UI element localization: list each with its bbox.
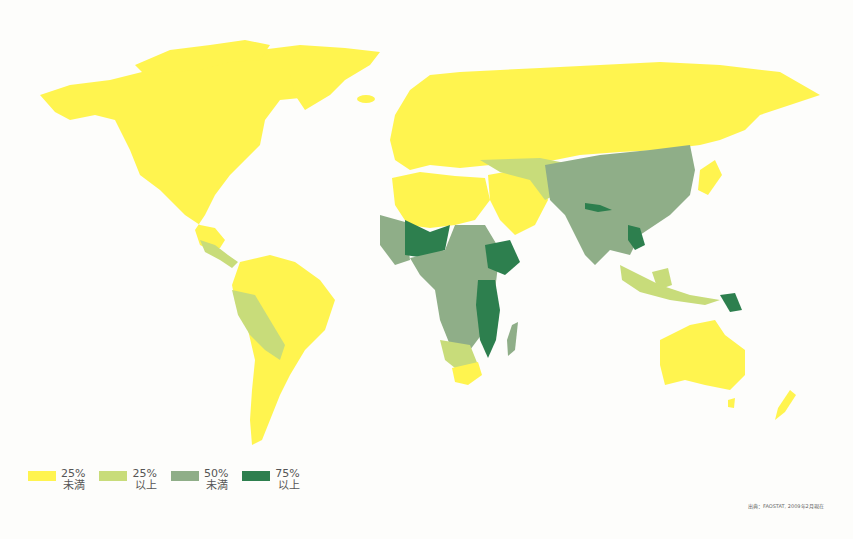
region-japan <box>698 160 722 195</box>
legend-item-ge25: 25% 以上 <box>99 468 156 492</box>
region-europe-russia <box>390 62 820 170</box>
region-new-zealand <box>775 390 796 420</box>
region-iceland <box>357 95 375 103</box>
legend-swatch <box>171 471 199 481</box>
region-south-america <box>232 255 335 445</box>
legend-swatch <box>28 471 56 481</box>
region-png <box>720 293 742 312</box>
region-south-asia-china <box>545 145 695 265</box>
legend-label-bottom: 未満 <box>61 480 85 492</box>
legend-swatch <box>242 471 270 481</box>
legend-item-ge75: 75% 以上 <box>242 468 299 492</box>
legend-label-bottom: 未満 <box>204 480 228 492</box>
source-note: 出典：FAOSTAT, 2009年2月現在 <box>748 502 824 509</box>
region-east-africa <box>476 280 500 358</box>
legend-item-lt25: 25% 未満 <box>28 468 85 492</box>
legend-swatch <box>99 471 127 481</box>
region-north-africa <box>392 172 490 228</box>
region-madagascar <box>507 322 518 356</box>
legend-item-lt50: 50% 未満 <box>171 468 228 492</box>
map-legend: 25% 未満 25% 以上 50% 未満 75% 以上 <box>28 468 300 492</box>
region-australia <box>660 320 745 390</box>
region-tasmania <box>728 398 735 408</box>
region-north-america <box>40 50 330 250</box>
legend-label-bottom: 以上 <box>275 480 299 492</box>
legend-label-bottom: 以上 <box>132 480 156 492</box>
world-map <box>0 0 853 539</box>
